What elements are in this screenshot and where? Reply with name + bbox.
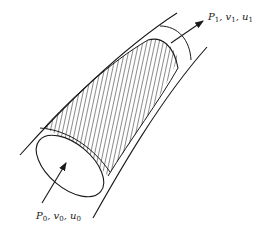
outlet-state-label: P1, v1, u1	[208, 12, 253, 24]
outlet-pressure-symbol: P	[208, 11, 215, 22]
stream-tube-diagram	[0, 0, 260, 232]
inlet-specific-volume-subscript: 0	[59, 215, 63, 223]
outlet-flow-arrow-icon	[171, 21, 203, 43]
inlet-internal-energy-subscript: 0	[77, 215, 81, 223]
inlet-pressure-symbol: P	[36, 210, 43, 221]
outlet-internal-energy-subscript: 1	[249, 16, 253, 24]
outlet-specific-volume-subscript: 1	[231, 16, 235, 24]
inlet-pressure-subscript: 0	[43, 215, 47, 223]
outlet-pressure-subscript: 1	[215, 16, 219, 24]
inlet-state-label: P0, v0, u0	[36, 211, 81, 223]
